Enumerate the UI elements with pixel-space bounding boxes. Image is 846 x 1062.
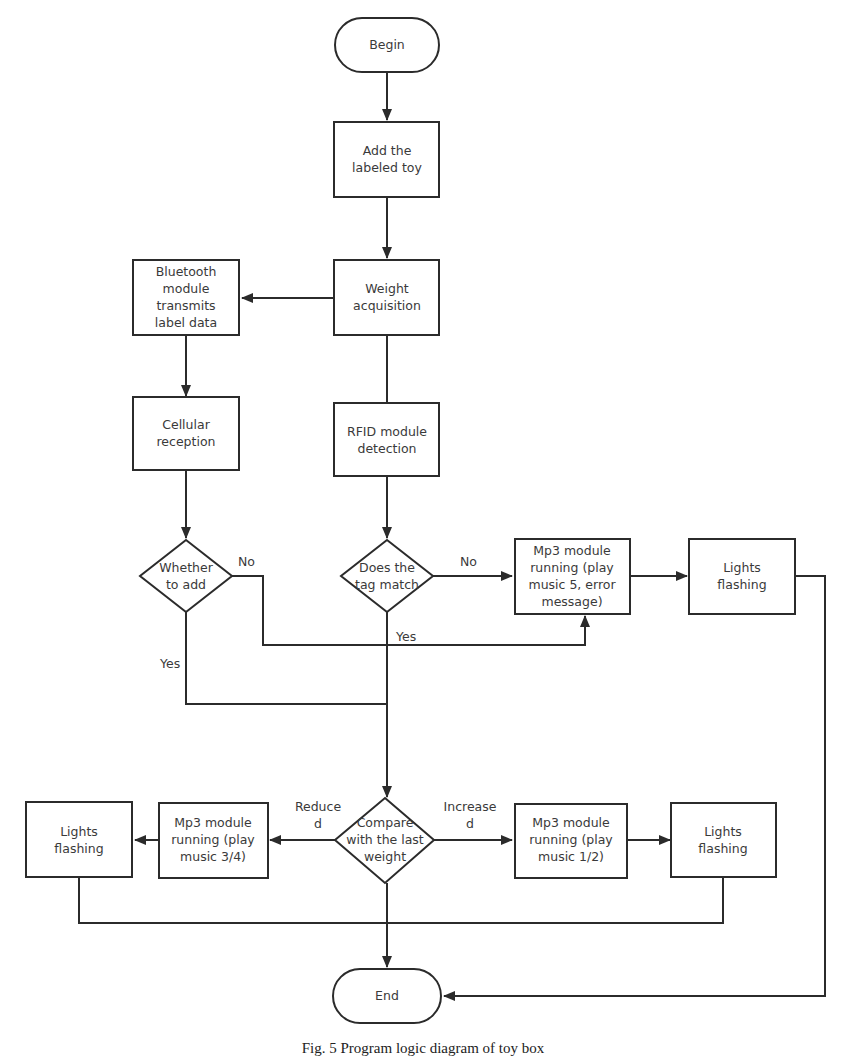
- line-whether-yes: [186, 612, 387, 704]
- svg-text:Mp3 modulerunning (playmusic 3: Mp3 modulerunning (playmusic 3/4): [171, 815, 255, 864]
- node-end: End: [333, 969, 441, 1023]
- svg-text:End: End: [375, 988, 399, 1003]
- node-begin: Begin: [335, 18, 439, 72]
- line-lights-merge: [79, 877, 723, 923]
- node-mp3-increased: Mp3 modulerunning (playmusic 1/2): [515, 804, 627, 878]
- node-weight-acquisition: Weightacquisition: [334, 260, 439, 335]
- node-whether-to-add: Whetherto add: [140, 540, 232, 612]
- label-reduced: Reduced: [295, 799, 342, 831]
- node-compare-weight: Comparewith the lastweight: [335, 798, 434, 883]
- label-tag-yes: Yes: [395, 629, 416, 644]
- node-lights-left: Lightsflashing: [26, 802, 132, 877]
- label-whether-yes: Yes: [159, 656, 180, 671]
- svg-text:Mp3 modulerunning (playmusic 1: Mp3 modulerunning (playmusic 1/2): [529, 815, 613, 864]
- node-bluetooth-transmit: Bluetoothmoduletransmitslabel data: [133, 260, 239, 335]
- label-whether-no: No: [238, 554, 255, 569]
- node-add-labeled-toy: Add thelabeled toy: [334, 122, 439, 197]
- svg-text:Begin: Begin: [369, 37, 405, 52]
- node-mp3-reduced: Mp3 modulerunning (playmusic 3/4): [159, 803, 268, 878]
- node-rfid-detection: RFID moduledetection: [334, 403, 439, 476]
- node-lights-right: Lightsflashing: [671, 803, 776, 877]
- flowchart: Begin Add thelabeled toy Weightacquisiti…: [0, 0, 846, 1062]
- node-cellular-reception: Cellularreception: [133, 397, 239, 470]
- node-tag-match: Does thetag match: [341, 540, 433, 612]
- node-mp3-error: Mp3 modulerunning (playmusic 5, errormes…: [515, 539, 630, 614]
- label-increased: Increased: [444, 799, 497, 831]
- label-tag-no: No: [460, 554, 477, 569]
- arrow-lights-top-to-end: [444, 576, 825, 996]
- node-lights-top: Lightsflashing: [689, 539, 795, 614]
- figure-caption: Fig. 5 Program logic diagram of toy box: [0, 1040, 846, 1057]
